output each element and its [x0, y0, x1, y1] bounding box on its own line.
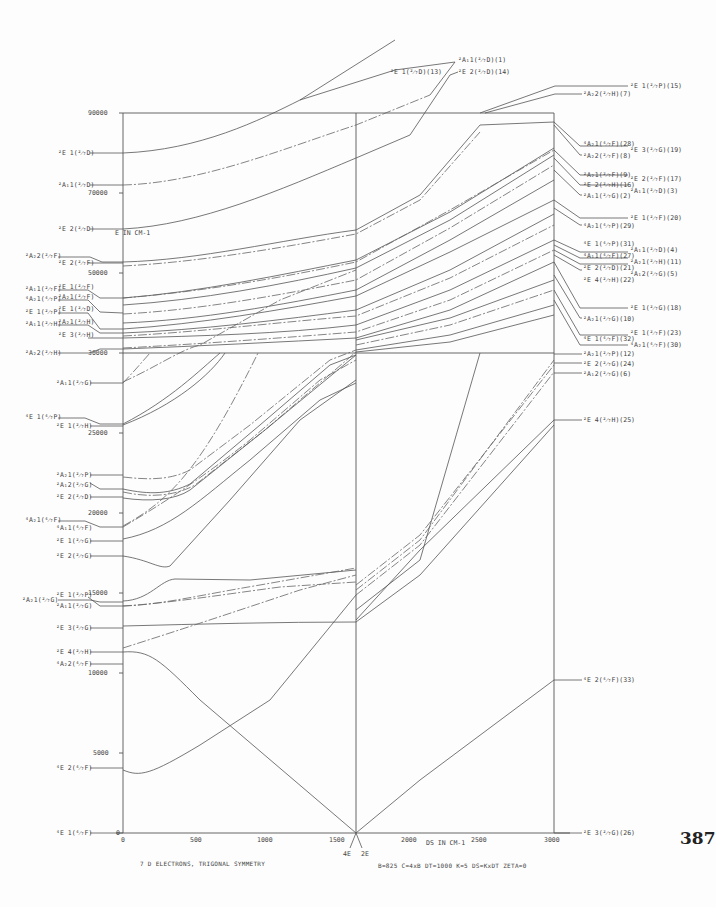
- svg-text:²E 1(²⁄₇F)(20): ²E 1(²⁄₇F)(20): [630, 214, 682, 222]
- svg-text:²A₂1(²⁄₇H): ²A₂1(²⁄₇H): [58, 318, 94, 326]
- svg-text:²E 3(²⁄₇G)(26): ²E 3(²⁄₇G)(26): [583, 829, 635, 837]
- svg-text:²A₁2(²⁄₇G)(5): ²A₁2(²⁄₇G)(5): [630, 270, 678, 278]
- svg-text:²A₂1(²⁄₇F): ²A₂1(²⁄₇F): [58, 293, 94, 301]
- svg-text:²E 1(²⁄₇P): ²E 1(²⁄₇P): [56, 591, 92, 599]
- x-axis-label: DS IN CM-1: [426, 839, 465, 847]
- left-labels: ²E 1(²⁄₇D) ²A₁1(²⁄₇D) ²E 2(²⁄₇D) ²A₂2(²⁄…: [22, 149, 94, 837]
- svg-text:⁴E 2(⁴⁄₇F): ⁴E 2(⁴⁄₇F): [56, 764, 92, 772]
- svg-text:20000: 20000: [88, 509, 108, 517]
- svg-text:2E: 2E: [361, 850, 369, 858]
- svg-text:⁴A₂1(⁴⁄₇F)(28): ⁴A₂1(⁴⁄₇F)(28): [583, 140, 635, 148]
- svg-text:⁴E 2(⁴⁄₇F)(33): ⁴E 2(⁴⁄₇F)(33): [583, 676, 635, 684]
- svg-text:⁴A₂2(⁴⁄₇F): ⁴A₂2(⁴⁄₇F): [56, 660, 92, 668]
- svg-text:⁴A₂1(⁴⁄₇P)(29): ⁴A₂1(⁴⁄₇P)(29): [583, 222, 635, 230]
- svg-text:²E 4(²⁄₇H)(22): ²E 4(²⁄₇H)(22): [583, 276, 635, 284]
- svg-text:1000: 1000: [257, 836, 273, 844]
- svg-text:70000: 70000: [88, 189, 108, 197]
- svg-text:⁴E 1(⁴⁄₇P): ⁴E 1(⁴⁄₇P): [25, 413, 61, 421]
- right-labels: ²E 1(²⁄₇D)(13) ²A₁1(²⁄₇D)(1) ²E 2(²⁄₇D)(…: [390, 56, 682, 837]
- svg-text:⁴A₁1(⁴⁄₇F): ⁴A₁1(⁴⁄₇F): [56, 524, 92, 532]
- svg-text:90000: 90000: [88, 109, 108, 117]
- svg-text:50000: 50000: [88, 269, 108, 277]
- svg-text:²E 1(²⁄₇D): ²E 1(²⁄₇D): [58, 149, 94, 157]
- svg-text:25000: 25000: [88, 429, 108, 437]
- svg-text:3000: 3000: [544, 836, 560, 844]
- svg-text:500: 500: [190, 836, 202, 844]
- svg-text:²A₁1(²⁄₇H): ²A₁1(²⁄₇H): [25, 320, 61, 328]
- svg-text:²E 1(²⁄₇H): ²E 1(²⁄₇H): [56, 422, 92, 430]
- svg-text:⁴E 1(⁴⁄₇F): ⁴E 1(⁴⁄₇F): [56, 829, 92, 837]
- svg-text:²A₁1(²⁄₇G): ²A₁1(²⁄₇G): [56, 602, 92, 610]
- right-label-leaders: [300, 62, 628, 833]
- svg-text:²A₂2(²⁄₇F)(8): ²A₂2(²⁄₇F)(8): [583, 152, 631, 160]
- svg-text:⁴A₂1(⁴⁄₇P): ⁴A₂1(⁴⁄₇P): [25, 295, 61, 303]
- svg-text:²A₂2(²⁄₇F): ²A₂2(²⁄₇F): [25, 252, 61, 260]
- y-axis-ticks: 90000 70000 50000 30000 25000 20000 1500…: [88, 109, 150, 837]
- svg-text:10000: 10000: [88, 669, 108, 677]
- svg-text:²A₁1(²⁄₇D)(1): ²A₁1(²⁄₇D)(1): [458, 56, 506, 64]
- svg-text:⁴A₁1(⁴⁄₇F)(27): ⁴A₁1(⁴⁄₇F)(27): [583, 252, 635, 260]
- svg-text:²E 1(²⁄₇G)(18): ²E 1(²⁄₇G)(18): [630, 304, 682, 312]
- x-axis-ticks: 0 500 1000 1500 2000 2500 3000 DS IN CM-…: [121, 833, 560, 858]
- svg-text:0: 0: [121, 836, 125, 844]
- svg-text:²E 2(²⁄₇H)(16): ²E 2(²⁄₇H)(16): [583, 181, 635, 189]
- svg-text:²E 2(²⁄₇D)(21): ²E 2(²⁄₇D)(21): [583, 264, 635, 272]
- svg-text:2000: 2000: [401, 836, 417, 844]
- svg-text:²A₂2(²⁄₇H)(7): ²A₂2(²⁄₇H)(7): [583, 90, 631, 98]
- svg-text:²A₂1(²⁄₇F)(9): ²A₂1(²⁄₇F)(9): [583, 171, 631, 179]
- svg-text:²E 2(²⁄₇G): ²E 2(²⁄₇G): [56, 552, 92, 560]
- svg-text:²A₂1(²⁄₇P): ²A₂1(²⁄₇P): [56, 471, 92, 479]
- svg-text:5000: 5000: [93, 749, 109, 757]
- svg-text:²E 1(²⁄₇P)(15): ²E 1(²⁄₇P)(15): [630, 82, 682, 90]
- svg-text:²E 3(²⁄₇H): ²E 3(²⁄₇H): [58, 331, 94, 339]
- svg-text:²E 2(²⁄₇G)(24): ²E 2(²⁄₇G)(24): [583, 360, 635, 368]
- svg-text:²A₂1(²⁄₇H)(11): ²A₂1(²⁄₇H)(11): [630, 258, 682, 266]
- page-number: 387: [680, 828, 716, 848]
- svg-text:²E 2(²⁄₇D): ²E 2(²⁄₇D): [56, 493, 92, 501]
- svg-text:²E 1(²⁄₇G): ²E 1(²⁄₇G): [56, 537, 92, 545]
- svg-text:²E 2(²⁄₇D): ²E 2(²⁄₇D): [58, 225, 94, 233]
- svg-text:²A₂1(²⁄₇P)(12): ²A₂1(²⁄₇P)(12): [583, 350, 635, 358]
- svg-text:²E 3(²⁄₇G)(19): ²E 3(²⁄₇G)(19): [630, 146, 682, 154]
- caption-left: 7 D ELECTRONS, TRIGONAL SYMMETRY: [140, 860, 265, 867]
- energy-curves-lower: [123, 350, 554, 833]
- svg-text:²A₁1(²⁄₇D)(4): ²A₁1(²⁄₇D)(4): [630, 246, 678, 254]
- svg-text:²E 1(²⁄₇F)(23): ²E 1(²⁄₇F)(23): [630, 329, 682, 337]
- svg-text:⁴E 1(⁴⁄₇F)(32): ⁴E 1(⁴⁄₇F)(32): [583, 335, 635, 343]
- svg-text:²A₁1(²⁄₇D)(3): ²A₁1(²⁄₇D)(3): [630, 187, 678, 195]
- svg-text:4E: 4E: [343, 850, 351, 858]
- svg-text:⁴A₂1(⁴⁄₇F): ⁴A₂1(⁴⁄₇F): [25, 516, 61, 524]
- svg-text:⁴E 1(⁴⁄₇P)(31): ⁴E 1(⁴⁄₇P)(31): [583, 240, 635, 248]
- svg-text:²A₂1(²⁄₇G)(10): ²A₂1(²⁄₇G)(10): [583, 315, 635, 323]
- svg-text:²A₂2(²⁄₇H): ²A₂2(²⁄₇H): [25, 349, 61, 357]
- svg-text:²A₁1(²⁄₇D): ²A₁1(²⁄₇D): [58, 181, 94, 189]
- svg-text:²E 1(²⁄₇F): ²E 1(²⁄₇F): [58, 283, 94, 291]
- svg-text:²A₁1(²⁄₇G)(2): ²A₁1(²⁄₇G)(2): [583, 192, 631, 200]
- svg-text:1500: 1500: [329, 836, 345, 844]
- svg-text:²A₁2(²⁄₇G): ²A₁2(²⁄₇G): [56, 481, 92, 489]
- energy-level-diagram: 90000 70000 50000 30000 25000 20000 1500…: [0, 0, 716, 907]
- svg-text:²A₂1(²⁄₇G): ²A₂1(²⁄₇G): [22, 596, 58, 604]
- svg-text:²E 2(²⁄₇F): ²E 2(²⁄₇F): [58, 259, 94, 267]
- y-axis-label: E IN CM-1: [115, 229, 150, 237]
- svg-text:²A₁2(²⁄₇G)(6): ²A₁2(²⁄₇G)(6): [583, 370, 631, 378]
- svg-text:⁴A₂1(⁴⁄₇F)(30): ⁴A₂1(⁴⁄₇F)(30): [630, 341, 682, 349]
- svg-text:²A₁1(²⁄₇G): ²A₁1(²⁄₇G): [56, 379, 92, 387]
- svg-text:2500: 2500: [471, 836, 487, 844]
- svg-text:²E 1(²⁄₇P): ²E 1(²⁄₇P): [25, 308, 61, 316]
- svg-text:²E 1(²⁄₇D): ²E 1(²⁄₇D): [58, 305, 94, 313]
- svg-text:²E 4(²⁄₇H): ²E 4(²⁄₇H): [56, 648, 92, 656]
- svg-text:²E 4(²⁄₇H)(25): ²E 4(²⁄₇H)(25): [583, 416, 635, 424]
- svg-text:²E 2(²⁄₇D)(14): ²E 2(²⁄₇D)(14): [458, 68, 510, 76]
- svg-text:²E 1(²⁄₇D)(13): ²E 1(²⁄₇D)(13): [390, 68, 442, 76]
- caption-right: B=825 C=4xB DT=1000 K=5 DS=KxDT ZETA=0: [378, 862, 527, 869]
- svg-text:²E 2(²⁄₇F)(17): ²E 2(²⁄₇F)(17): [630, 175, 682, 183]
- svg-text:²E 3(²⁄₇G): ²E 3(²⁄₇G): [56, 624, 92, 632]
- svg-text:²A₁1(²⁄₇F): ²A₁1(²⁄₇F): [25, 285, 61, 293]
